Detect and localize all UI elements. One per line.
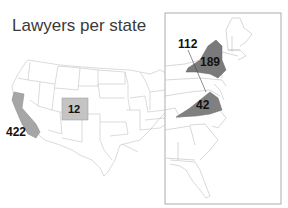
state-borders	[12, 60, 170, 176]
label-california: 422	[6, 125, 26, 139]
label-new-york: 189	[200, 55, 220, 69]
label-colorado: 12	[68, 103, 80, 115]
label-callout-112: 112	[178, 37, 197, 51]
us-map	[0, 0, 288, 208]
label-virginia: 42	[196, 98, 209, 112]
